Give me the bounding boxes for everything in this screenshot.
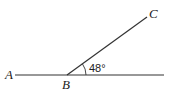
angle-label: 48° (89, 62, 106, 74)
point-label-C: C (149, 6, 158, 21)
angle-diagram: A B C 48° (0, 0, 169, 95)
point-label-B: B (62, 77, 70, 92)
point-label-A: A (4, 67, 13, 82)
angle-arc (82, 64, 86, 75)
ray-BC (67, 17, 147, 75)
